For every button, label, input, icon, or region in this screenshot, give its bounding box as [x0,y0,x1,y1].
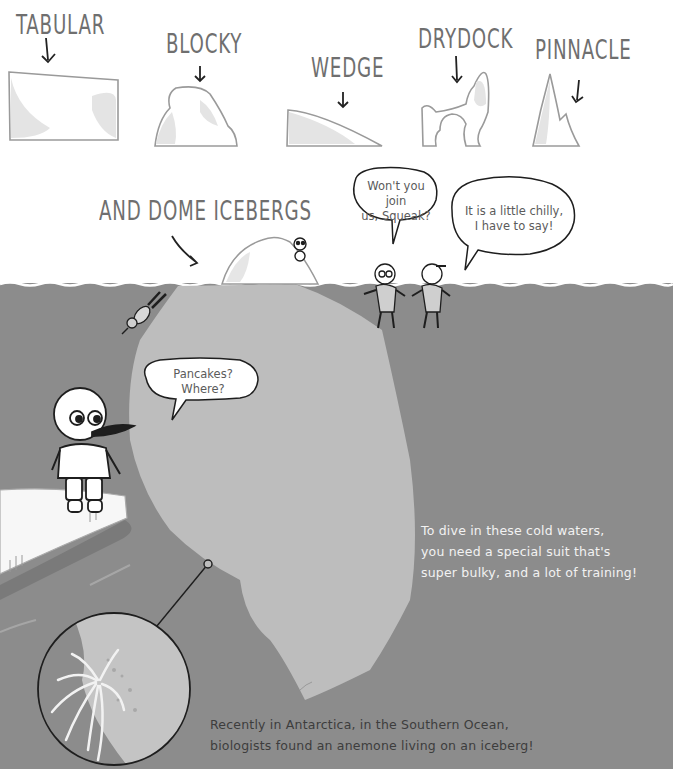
label-wedge: WEDGE [311,53,384,83]
label-tabular: TABULAR [16,10,105,40]
bubble-chilly-text: It is a little chilly, I have to say! [455,204,573,234]
scene-illustration [0,0,673,769]
label-blocky: BLOCKY [166,29,242,59]
drydock-iceberg-drawing [422,56,489,146]
bubble-squeak-invite-text: Won't you join us, Squeak? [356,179,436,224]
label-pinnacle: PINNACLE [535,35,631,65]
bubble-line: I have to say! [455,219,573,234]
blocky-iceberg-drawing [155,66,237,146]
bubble-line: Won't you join [356,179,436,209]
caption-line: biologists found an anemone living on an… [210,735,534,756]
bubble-pancakes-text: Pancakes? Where? [150,367,256,397]
bubble-line: Pancakes? [150,367,256,382]
tabular-iceberg-drawing [9,38,118,140]
pinnacle-iceberg-drawing [533,74,583,146]
wedge-iceberg-drawing [287,92,382,146]
caption-diving: To dive in these cold waters, you need a… [421,520,637,583]
label-drydock: DRYDOCK [418,24,513,54]
bubble-line: us, Squeak? [356,209,436,224]
magnifier-anchor-dot [204,560,212,568]
label-dome-icebergs: AND DOME ICEBERGS [99,196,312,226]
caption-line: Recently in Antarctica, in the Southern … [210,714,534,735]
bubble-line: It is a little chilly, [455,204,573,219]
illustrated-page: TABULAR BLOCKY WEDGE DRYDOCK PINNACLE AN… [0,0,673,769]
caption-line: super bulky, and a lot of training! [421,562,637,583]
caption-line: To dive in these cold waters, [421,520,637,541]
caption-line: you need a special suit that's [421,541,637,562]
bubble-line: Where? [150,382,256,397]
caption-anemone: Recently in Antarctica, in the Southern … [210,714,534,756]
